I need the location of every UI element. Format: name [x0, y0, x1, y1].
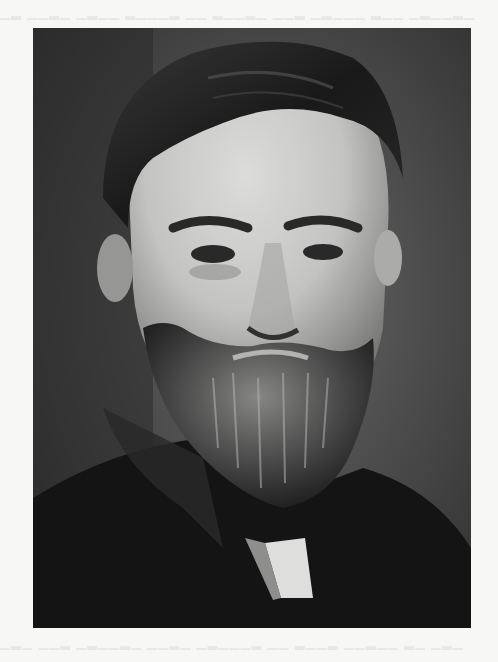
portrait-illustration — [33, 28, 471, 628]
portrait-photo — [33, 28, 471, 628]
show-through-text-top: ▁▂ ▁▁▂▁ ▁▂▁▁ ▂▁▁▁▂ ▁▁ ▂▁▁▂▁ ▁▁▂ ▁▂▁▁▁ ▂▁… — [0, 2, 498, 24]
show-through-text-bottom: ▁▂▁ ▁▁▂ ▁▂▁▁▂▁ ▁▁▂▁ ▁▂▁▁▁▂ ▁▁ ▂▁▁▂ ▁▁▂▁▁… — [0, 632, 498, 654]
